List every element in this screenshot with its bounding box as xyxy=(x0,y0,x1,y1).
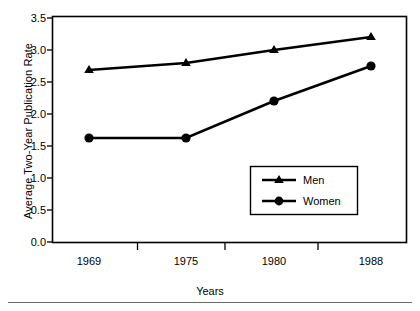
legend-label-women: Women xyxy=(303,195,341,207)
y-axis-ticks xyxy=(47,18,52,242)
legend-label-men: Men xyxy=(303,174,324,186)
series-markers-women xyxy=(84,61,375,142)
series-line-men xyxy=(89,37,371,70)
chart-figure: Average Two-Year Publication Rate 3.5 3.… xyxy=(0,0,420,311)
bottom-divider xyxy=(8,302,412,303)
plot-area xyxy=(0,0,420,311)
series-line-women xyxy=(89,66,371,138)
